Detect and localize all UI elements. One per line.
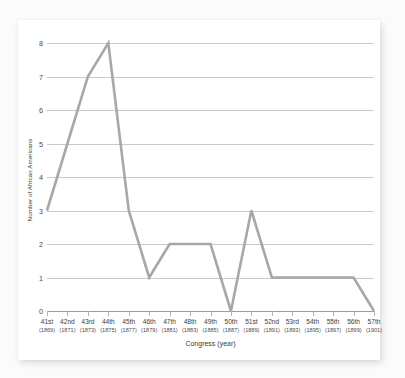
x-axis-title: Congress (year) [47,340,374,347]
series-plot [0,0,405,378]
series-line-african-americans [47,43,374,311]
line-chart: Number of African Americans 012345678 41… [0,0,405,378]
